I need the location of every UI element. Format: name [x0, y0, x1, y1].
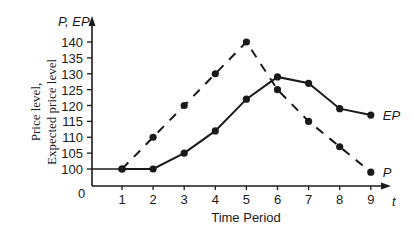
x-tick-label: 9 — [367, 192, 374, 207]
data-point-p — [243, 38, 250, 45]
data-point-p — [150, 134, 157, 141]
y-axis-title: Price level, Expected price level — [28, 59, 59, 165]
y-tick-label: 105 — [61, 146, 83, 161]
data-point-p — [212, 70, 219, 77]
y-tick-label: 125 — [61, 83, 83, 98]
x-tick-label: 2 — [149, 192, 156, 207]
data-point-ep — [274, 73, 281, 80]
data-point-p — [305, 118, 312, 125]
data-point-ep — [367, 111, 374, 118]
series-line-ep — [122, 77, 371, 169]
y-tick-label: 115 — [62, 114, 83, 129]
y-axis-title-line2: Expected price level — [44, 59, 59, 165]
data-point-ep — [212, 127, 219, 134]
y-tick-label: 110 — [62, 130, 83, 145]
y-ticks: 100105110115120125130135140 — [61, 35, 92, 177]
data-point-p — [336, 143, 343, 150]
data-point-p — [181, 102, 188, 109]
x-tick-label: 7 — [305, 192, 312, 207]
series-label-ep: EP — [383, 108, 401, 123]
y-tick-label: 120 — [61, 99, 83, 114]
y-tick-label: 130 — [61, 67, 83, 82]
x-tick-label: 4 — [212, 192, 219, 207]
axes — [89, 16, 392, 190]
data-point-ep — [305, 80, 312, 87]
x-axis-arrow-icon — [381, 183, 391, 190]
y-axis-title-line1: Price level, — [28, 83, 43, 141]
data-point-ep — [181, 150, 188, 157]
data-point-ep — [243, 96, 250, 103]
y-tick-label: 100 — [61, 162, 83, 177]
y-axis-symbol: P, EP — [58, 14, 90, 29]
series-group: PEP — [92, 38, 400, 180]
data-point-ep — [336, 105, 343, 112]
x-tick-label: 6 — [274, 192, 281, 207]
x-tick-label: 1 — [118, 192, 125, 207]
x-axis-title: Time Period — [211, 210, 281, 225]
series-line-p — [122, 42, 371, 172]
x-tick-label: 5 — [243, 192, 250, 207]
data-point-p — [274, 86, 281, 93]
origin-label: 0 — [78, 186, 85, 201]
data-point-ep — [150, 165, 157, 172]
x-tick-label: 3 — [181, 192, 188, 207]
data-point-p — [367, 169, 374, 176]
y-tick-label: 140 — [61, 35, 83, 50]
data-point-ep — [118, 165, 125, 172]
x-tick-label: 8 — [336, 192, 343, 207]
x-ticks: 123456789 — [118, 186, 374, 207]
price-expectation-chart: Price level, Expected price level P, EP … — [0, 0, 414, 236]
y-tick-label: 135 — [61, 51, 83, 66]
series-label-p: P — [383, 165, 392, 180]
x-axis-symbol: t — [392, 194, 397, 209]
